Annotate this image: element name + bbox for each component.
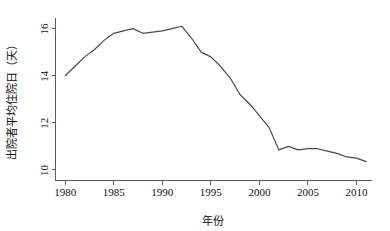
x-tick-label: 1995 <box>200 186 223 198</box>
x-axis-title: 年份 <box>202 214 224 227</box>
x-tick-label: 2000 <box>248 186 271 198</box>
y-tick-label: 10 <box>38 164 50 176</box>
x-tick-label: 2010 <box>346 186 369 198</box>
line-chart: 1980198519901995200020052010 10121416 年份… <box>0 0 390 231</box>
y-tick-label: 12 <box>38 118 50 129</box>
x-tick-label: 1985 <box>103 186 126 198</box>
y-tick-label: 16 <box>38 23 50 34</box>
x-tick-label: 1980 <box>54 186 77 198</box>
x-tick-label: 1990 <box>151 186 174 198</box>
y-tick-label: 14 <box>38 70 50 82</box>
chart-container: 1980198519901995200020052010 10121416 年份… <box>0 0 390 231</box>
x-tick-label: 2005 <box>297 186 320 198</box>
y-axis-title: 出院者平均住院日（天） <box>5 39 18 160</box>
